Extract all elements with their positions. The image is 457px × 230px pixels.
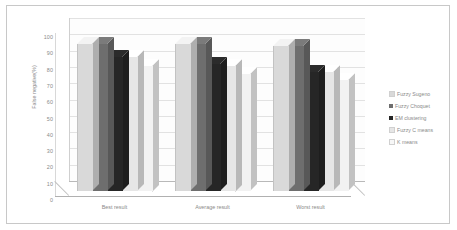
bar-side [288, 39, 295, 191]
legend-label: EM clustering [395, 115, 426, 121]
legend-swatch-icon [389, 116, 393, 120]
legend-item[interactable]: K means [389, 136, 455, 148]
y-axis-title: False negative(%) [31, 44, 37, 130]
y-axis-tick-label: 10 [19, 181, 53, 187]
bar-group [175, 19, 250, 198]
plot-area: Best resultAverage resultWorst result [55, 18, 365, 198]
y-axis-tick-label: 40 [19, 132, 53, 138]
legend-item[interactable]: Fuzzy Sugeno [389, 88, 455, 100]
bar [175, 44, 190, 191]
y-axis-line-front [55, 33, 56, 197]
legend-item[interactable]: EM clustering [389, 112, 455, 124]
legend-swatch-icon [389, 91, 395, 97]
x-axis-category-label: Average result [175, 204, 250, 210]
legend-item[interactable]: Fuzzy Choquet [389, 100, 455, 112]
bar-side [250, 67, 257, 191]
bar-side [235, 59, 242, 192]
bar-side [190, 37, 197, 191]
legend-item[interactable]: Fuzzy C means [389, 124, 455, 136]
x-axis-category-label: Worst result [273, 204, 348, 210]
bar [77, 44, 92, 191]
y-axis-tick-label: 0 [19, 197, 53, 203]
bar-side [205, 37, 212, 191]
y-axis-tick-labels: 1009080706050403020100 [7, 18, 53, 198]
bar-side [137, 50, 144, 191]
y-axis-tick-label: 30 [19, 148, 53, 154]
bar-side [220, 57, 227, 191]
chart-container: 1009080706050403020100 False negative(%)… [6, 5, 450, 224]
legend-swatch-icon [389, 104, 393, 108]
y-axis-line [69, 18, 70, 182]
legend-label: Fuzzy C means [397, 127, 433, 133]
bar-side [303, 39, 310, 191]
bar-face [273, 46, 289, 191]
bar-side [348, 73, 355, 191]
bar-group [273, 19, 348, 198]
bar-face [175, 44, 191, 191]
legend-label: K means [397, 139, 417, 145]
bar [273, 46, 288, 191]
bar-side [152, 59, 159, 192]
y-axis-tick-label: 20 [19, 164, 53, 170]
bar-group [77, 19, 152, 198]
legend-swatch-icon [389, 139, 395, 145]
bar-side [122, 50, 129, 191]
bar-side [333, 65, 340, 191]
x-axis-category-label: Best result [77, 204, 152, 210]
y-axis-tick-label: 100 [19, 34, 53, 40]
legend-label: Fuzzy Choquet [395, 103, 430, 109]
legend-label: Fuzzy Sugeno [397, 91, 430, 97]
floor-edge-left [54, 181, 69, 196]
bar-side [318, 65, 325, 191]
chart-legend: Fuzzy SugenoFuzzy ChoquetEM clusteringFu… [389, 88, 455, 148]
legend-swatch-icon [389, 127, 395, 133]
bar-side [107, 37, 114, 191]
bar-face [77, 44, 93, 191]
bar-side [92, 37, 99, 191]
